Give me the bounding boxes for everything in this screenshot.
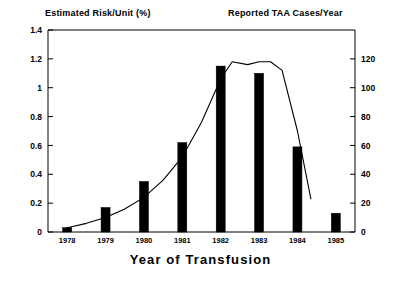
bar-series bbox=[63, 66, 341, 232]
x-axis-title: Year of Transfusion bbox=[0, 252, 401, 267]
left-tick-label: 0.8 bbox=[30, 112, 42, 122]
x-tick-label: 1983 bbox=[251, 236, 268, 245]
bar bbox=[216, 66, 225, 232]
left-tick-label: 1 bbox=[37, 83, 42, 93]
right-tick-label: 100 bbox=[361, 83, 375, 93]
left-tick-label: 0.6 bbox=[30, 141, 42, 151]
right-axis-ticks: 020406080100120 bbox=[350, 54, 375, 237]
bar bbox=[331, 213, 340, 232]
left-tick-label: 1.4 bbox=[30, 25, 42, 35]
right-tick-label: 60 bbox=[361, 141, 371, 151]
x-tick-label: 1978 bbox=[59, 236, 76, 245]
plot-frame bbox=[48, 30, 355, 232]
x-tick-label: 1981 bbox=[174, 236, 191, 245]
left-tick-label: 0.4 bbox=[30, 169, 42, 179]
right-tick-label: 20 bbox=[361, 198, 371, 208]
bar bbox=[139, 182, 148, 233]
left-axis-ticks: 00.20.40.60.811.21.4 bbox=[30, 25, 53, 237]
x-tick-label: 1984 bbox=[289, 236, 307, 245]
left-tick-label: 0 bbox=[37, 227, 42, 237]
left-tick-label: 0.2 bbox=[30, 198, 42, 208]
bar bbox=[101, 207, 110, 232]
left-tick-label: 1.2 bbox=[30, 54, 42, 64]
x-tick-label: 1979 bbox=[97, 236, 114, 245]
x-tick-label: 1985 bbox=[327, 236, 344, 245]
right-tick-label: 40 bbox=[361, 169, 371, 179]
right-tick-label: 120 bbox=[361, 54, 375, 64]
x-tick-label: 1982 bbox=[212, 236, 229, 245]
risk-line-series bbox=[67, 62, 311, 228]
bar bbox=[255, 73, 264, 232]
bar bbox=[63, 228, 72, 232]
risk-curve bbox=[67, 62, 311, 228]
chart-figure: Estimated Risk/Unit (%) Reported TAA Cas… bbox=[0, 0, 401, 284]
bar bbox=[293, 147, 302, 232]
right-tick-label: 0 bbox=[361, 227, 366, 237]
plot-area: 00.20.40.60.811.21.4 020406080100120 197… bbox=[0, 0, 401, 284]
right-tick-label: 80 bbox=[361, 112, 371, 122]
x-tick-label: 1980 bbox=[136, 236, 153, 245]
